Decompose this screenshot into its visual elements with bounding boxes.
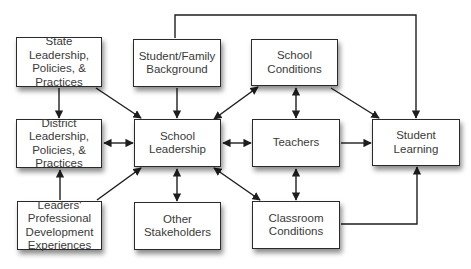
node-classroom-conditions: Classroom Conditions (252, 201, 340, 249)
node-school-leadership: School Leadership (134, 119, 221, 167)
node-district-leadership: District Leadership, Policies, & Practic… (16, 119, 102, 168)
edge-school-leadership-school-conditions (214, 87, 258, 119)
edge-school-conditions-student-learning (331, 88, 379, 118)
node-teachers: Teachers (252, 119, 340, 167)
node-student-family-background: Student/Family Background (133, 39, 221, 87)
edge-state-school-leadership (96, 88, 141, 118)
leadership-influence-diagram: State Leadership, Policies, & Practices … (0, 0, 471, 269)
node-state-leadership: State Leadership, Policies, & Practices (16, 37, 102, 87)
edge-school-leadership-classroom-conditions (214, 168, 260, 200)
node-school-conditions: School Conditions (251, 39, 338, 86)
edge-classroom-conditions-student-learning (341, 167, 417, 224)
edge-leaders-pd-school-leadership (97, 168, 141, 200)
node-leaders-professional-development: Leaders' Professional Development Experi… (17, 201, 102, 250)
node-other-stakeholders: Other Stakeholders (134, 202, 221, 250)
node-student-learning: Student Learning (372, 119, 460, 166)
